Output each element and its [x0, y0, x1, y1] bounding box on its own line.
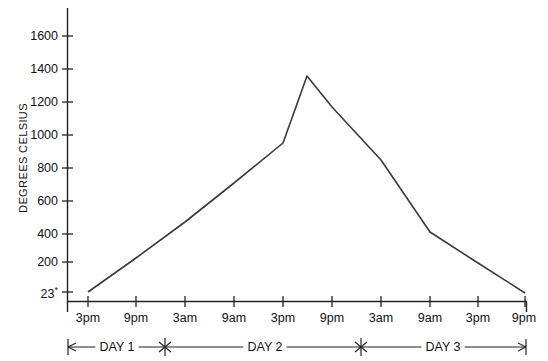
plot-canvas — [0, 0, 548, 361]
day-band-label-3: DAY 3 — [422, 340, 465, 354]
day-band-label-1: DAY 1 — [96, 340, 139, 354]
day-band-label-2: DAY 2 — [244, 340, 287, 354]
temperature-line-chart: DEGREES CELSIUS 1600 1400 1200 1000 800 … — [0, 0, 548, 361]
temperature-data-line — [88, 76, 525, 293]
x-tick-label: 9pm — [494, 311, 548, 325]
